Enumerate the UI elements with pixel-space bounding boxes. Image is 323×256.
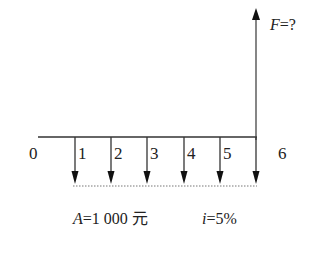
future-value-rest: =? <box>280 16 296 33</box>
cash-flow-diagram: 0 1 2 3 4 5 6 F=? A=1 000 元 i=5% <box>0 0 323 256</box>
period-label-2: 2 <box>114 144 123 163</box>
rate-label: i=5% <box>202 210 237 227</box>
period-label-4: 4 <box>187 144 196 163</box>
future-value-label: F=? <box>269 16 296 33</box>
annuity-value: =1 000 元 <box>83 210 148 227</box>
annuity-label: A=1 000 元 <box>72 210 148 227</box>
rate-value: =5% <box>206 210 236 227</box>
annuity-symbol: A <box>72 210 83 227</box>
period-label-6: 6 <box>278 144 287 163</box>
period-label-0: 0 <box>29 144 38 163</box>
period-label-1: 1 <box>78 144 87 163</box>
future-value-arrow <box>252 8 260 140</box>
period-label-5: 5 <box>223 144 232 163</box>
annuity-arrow-6 <box>253 137 260 184</box>
period-label-3: 3 <box>150 144 159 163</box>
future-value-symbol: F <box>269 16 280 33</box>
